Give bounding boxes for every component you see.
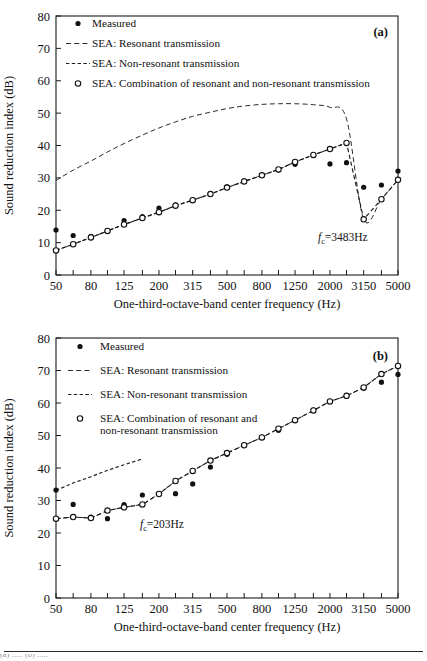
combination-point (88, 235, 93, 240)
measured-point (190, 481, 195, 486)
combination-point (379, 371, 384, 376)
combination-point (241, 179, 246, 184)
measured-point (53, 488, 58, 493)
critical-frequency-annotation: fc=3483Hz (318, 231, 368, 246)
measured-point (71, 233, 76, 238)
combination-point (156, 209, 161, 214)
y-tick-label-20: 20 (38, 527, 51, 541)
combination-point (190, 198, 195, 203)
y-tick-label-50: 50 (38, 429, 51, 443)
combination-point (140, 215, 145, 220)
y-tick-label-40: 40 (38, 462, 51, 476)
caption-fragment-strip: (a) ..... (b) ..... (0, 654, 427, 661)
measured-point (361, 185, 366, 190)
x-tick-label-200: 200 (150, 602, 169, 616)
combination-point (105, 228, 110, 233)
chart-b-canvas: 0102030405060708050801252003155008001250… (0, 330, 427, 645)
combination-point (311, 152, 316, 157)
y-tick-label-70: 70 (38, 364, 51, 378)
combination-point (70, 514, 75, 519)
combination-point (88, 515, 93, 520)
combination-point (276, 426, 281, 431)
legend-label-3: SEA: Combination of resonant and (100, 412, 258, 424)
measured-point (379, 380, 384, 385)
measured-point (327, 161, 332, 166)
y-tick-label-80: 80 (38, 10, 51, 24)
combination-point (105, 508, 110, 513)
combination-point (70, 242, 75, 247)
combination-point (292, 159, 297, 164)
measured-point (173, 491, 178, 496)
x-tick-label-50: 50 (50, 602, 63, 616)
figure-panel-b: 0102030405060708050801252003155008001250… (0, 330, 427, 645)
x-tick-label-3150: 3150 (351, 602, 376, 616)
combination-point (292, 418, 297, 423)
legend-marker-combination (75, 81, 80, 86)
x-tick-label-5000: 5000 (386, 279, 411, 293)
y-tick-label-30: 30 (38, 494, 51, 508)
y-tick-label-70: 70 (38, 42, 51, 56)
combination-point (224, 450, 229, 455)
x-tick-label-800: 800 (253, 602, 272, 616)
figure-panel-a: 0102030405060708050801252003155008001250… (0, 0, 427, 330)
combination-point (327, 146, 332, 151)
combination-point (344, 393, 349, 398)
y-tick-label-20: 20 (38, 204, 51, 218)
y-tick-label-80: 80 (38, 332, 51, 346)
panel-tag-panel_a: (a) (373, 25, 388, 39)
combination-point (276, 167, 281, 172)
combination-point (53, 248, 58, 253)
legend-label-0: Measured (92, 17, 137, 29)
legend-label-2: SEA: Non-resonant transmission (100, 388, 248, 400)
combination-point (259, 173, 264, 178)
combination-point (121, 505, 126, 510)
legend-marker-measured (77, 344, 82, 349)
caption-separator-rule (4, 651, 423, 652)
legend-label-2: SEA: Non-resonant transmission (92, 57, 240, 69)
combination-point (327, 399, 332, 404)
y-tick-label-40: 40 (38, 139, 51, 153)
fc-text: fc=203Hz (140, 518, 184, 533)
x-tick-label-800: 800 (253, 279, 272, 293)
x-tick-label-125: 125 (115, 602, 134, 616)
combination-point (208, 458, 213, 463)
combination-point (173, 203, 178, 208)
combination-point (395, 363, 400, 368)
y-tick-label-30: 30 (38, 171, 51, 185)
legend-marker-combination (77, 416, 82, 421)
measured-point (395, 168, 400, 173)
combination-point (173, 478, 178, 483)
x-tick-label-315: 315 (183, 279, 202, 293)
fc-value: =203Hz (147, 518, 184, 530)
combination-point (259, 435, 264, 440)
measured-point (395, 372, 400, 377)
legend-panel_b: MeasuredSEA: Resonant transmissionSEA: N… (68, 340, 258, 436)
x-tick-label-1250: 1250 (283, 279, 308, 293)
combination-point (121, 222, 126, 227)
combination-point (208, 191, 213, 196)
x-tick-label-50: 50 (50, 279, 63, 293)
x-tick-label-2000: 2000 (317, 602, 342, 616)
x-tick-label-200: 200 (150, 279, 169, 293)
x-axis-title: One-third-octave-band center frequency (… (114, 620, 341, 634)
legend-label-1: SEA: Resonant transmission (100, 364, 228, 376)
combination-point (311, 408, 316, 413)
legend-panel_a: MeasuredSEA: Resonant transmissionSEA: N… (66, 17, 370, 89)
combination-point (361, 217, 366, 222)
combination-point (379, 197, 384, 202)
x-tick-label-80: 80 (85, 602, 98, 616)
x-tick-label-3150: 3150 (351, 279, 376, 293)
measured-point (53, 227, 58, 232)
y-axis-title: Sound reduction index (dB) (2, 76, 16, 215)
critical-frequency-annotation: fc=203Hz (140, 518, 184, 533)
combination-point (156, 491, 161, 496)
x-tick-label-1250: 1250 (283, 602, 308, 616)
series-non-resonant-line (56, 459, 142, 491)
x-tick-label-315: 315 (183, 602, 202, 616)
measured-point (379, 182, 384, 187)
x-tick-label-500: 500 (218, 602, 237, 616)
x-axis-title: One-third-octave-band center frequency (… (114, 297, 341, 311)
fc-text: fc=3483Hz (318, 231, 368, 246)
plot-frame-panel_b (56, 338, 398, 598)
combination-point (140, 502, 145, 507)
